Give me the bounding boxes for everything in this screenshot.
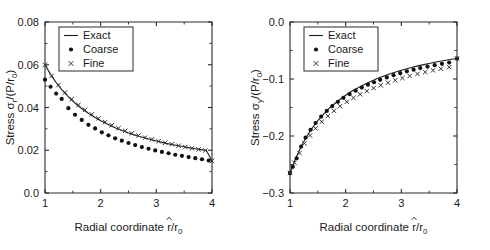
legend-label: Coarse <box>328 43 363 55</box>
hat-accent-icon <box>412 217 417 220</box>
series-exact <box>45 65 212 161</box>
x-tick-label: 1 <box>42 197 48 209</box>
series-coarse <box>43 78 211 163</box>
svg-text:Radial coordinate r/r0: Radial coordinate r/r0 <box>74 221 183 236</box>
y-tick-label: 0.0 <box>269 16 284 28</box>
plot-left: 0.00.020.040.060.081234ExactCoarseFineRa… <box>0 0 245 250</box>
y-tick-label: −0.2 <box>262 130 284 142</box>
chart-panel-left: 0.00.020.040.060.081234ExactCoarseFineRa… <box>0 0 245 250</box>
series-coarse <box>288 56 459 175</box>
legend-label: Exact <box>83 29 111 41</box>
x-tick-label: 3 <box>398 197 404 209</box>
legend-label: Fine <box>83 57 104 69</box>
y-tick-label: 0.02 <box>18 144 39 156</box>
y-tick-label: 0.04 <box>18 102 39 114</box>
y-tick-label: −0.1 <box>262 73 284 85</box>
svg-text:Radial coordinate r/r0: Radial coordinate r/r0 <box>319 221 428 236</box>
x-tick-label: 4 <box>454 197 460 209</box>
figure-container: 0.00.020.040.060.081234ExactCoarseFineRa… <box>0 0 490 250</box>
y-tick-label: 0.06 <box>18 59 39 71</box>
y-tick-label: 0.0 <box>24 187 39 199</box>
legend-label: Fine <box>328 57 349 69</box>
legend-dot-swatch <box>69 47 73 51</box>
hat-accent-icon <box>167 217 172 220</box>
x-tick-label: 2 <box>98 197 104 209</box>
x-axis-title: Radial coordinate r/r0 <box>319 217 428 236</box>
y-tick-label: 0.08 <box>18 16 39 28</box>
legend-dot-swatch <box>314 47 318 51</box>
legend-label: Coarse <box>83 43 118 55</box>
x-tick-label: 1 <box>287 197 293 209</box>
series-exact <box>290 58 457 173</box>
chart-panel-right: 0.0−0.1−0.2−0.31234ExactCoarseFineRadial… <box>245 0 490 250</box>
plot-right: 0.0−0.1−0.2−0.31234ExactCoarseFineRadial… <box>245 0 490 250</box>
legend-label: Exact <box>328 29 356 41</box>
x-tick-label: 4 <box>209 197 215 209</box>
x-tick-label: 3 <box>153 197 159 209</box>
legend[interactable]: ExactCoarseFine <box>304 27 378 71</box>
legend[interactable]: ExactCoarseFine <box>59 27 133 71</box>
y-tick-label: −0.3 <box>262 187 284 199</box>
x-axis-title: Radial coordinate r/r0 <box>74 217 183 236</box>
x-tick-label: 2 <box>343 197 349 209</box>
series-fine <box>288 56 459 175</box>
